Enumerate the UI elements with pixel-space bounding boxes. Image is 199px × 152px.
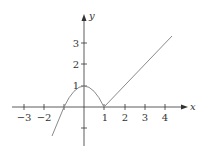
y-axis-arrow-icon xyxy=(82,14,87,21)
x-tick-label: 3 xyxy=(142,112,148,123)
right-linear-piece xyxy=(104,36,172,107)
y-tick-label: 3 xyxy=(73,38,79,49)
function-graph: −3 −2 1 2 3 4 1 2 3 x y xyxy=(0,0,199,152)
y-axis-label: y xyxy=(88,10,95,21)
x-axis-arrow-icon xyxy=(181,105,188,110)
x-tick-label: −2 xyxy=(37,112,52,123)
x-tick-label: −3 xyxy=(17,112,32,123)
x-tick-label: 4 xyxy=(162,112,168,123)
x-axis-label: x xyxy=(190,101,196,112)
x-tick-label: 2 xyxy=(122,112,128,123)
function-curve xyxy=(52,36,172,136)
left-linear-piece xyxy=(52,107,64,136)
x-tick-label: 1 xyxy=(102,112,108,123)
y-tick-label: 2 xyxy=(73,59,79,70)
